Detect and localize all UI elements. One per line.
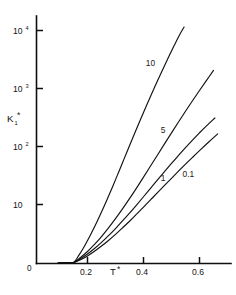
origin-label: 0	[27, 264, 32, 273]
x-tick-label-0.6: 0.6	[192, 267, 204, 277]
origin-label-group: 0	[27, 264, 32, 273]
y-axis-title-star: *	[17, 110, 21, 120]
y-tick-label-1000-exponent: 3	[26, 83, 29, 89]
curve-label-1: 1	[161, 173, 166, 183]
curve-1	[58, 118, 215, 263]
chart-figure: 10 4 10 3 10 2 10 0.2 0.4 0.6 0 K 1 * T …	[0, 0, 236, 295]
y-axis-ticks	[37, 31, 44, 205]
x-axis-title: T *	[110, 264, 121, 277]
curve-0-1	[58, 134, 218, 263]
plot-axes	[37, 16, 232, 264]
curve-5	[58, 70, 213, 263]
y-axis-tick-labels: 10 4 10 3 10 2 10	[13, 25, 29, 211]
curve-label-0-1: 0.1	[182, 169, 194, 179]
y-tick-label-10000-exponent: 4	[26, 25, 29, 31]
y-tick-label-100-mantissa: 10	[13, 142, 23, 152]
curve-label-5: 5	[161, 125, 166, 135]
curve-group	[58, 27, 218, 263]
curve-label-10: 10	[146, 58, 156, 68]
x-axis-tick-labels: 0.2 0.4 0.6	[80, 267, 204, 277]
y-axis-title-base: K	[7, 113, 14, 124]
y-tick-label-10: 10	[13, 200, 23, 210]
semilog-plot: 10 4 10 3 10 2 10 0.2 0.4 0.6 0 K 1 * T …	[0, 0, 236, 295]
y-axis-title: K 1 *	[7, 110, 21, 126]
x-tick-label-0.2: 0.2	[80, 267, 92, 277]
x-axis-ticks	[88, 257, 200, 264]
y-tick-label-1000-mantissa: 10	[13, 84, 23, 94]
x-axis-title-star: *	[117, 264, 121, 274]
curve-10	[58, 27, 184, 263]
y-tick-label-100-exponent: 2	[26, 141, 29, 147]
x-axis-title-base: T	[110, 266, 116, 277]
x-tick-label-0.4: 0.4	[136, 267, 148, 277]
y-axis-title-subscript: 1	[15, 120, 18, 126]
y-tick-label-10000-mantissa: 10	[13, 26, 23, 36]
